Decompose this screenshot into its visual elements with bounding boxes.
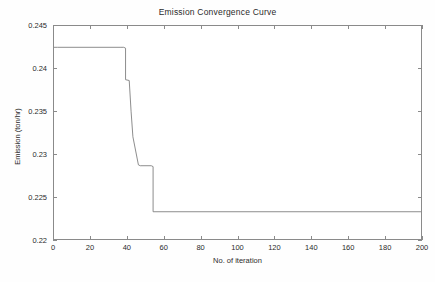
y-tick xyxy=(53,154,57,155)
x-tick-label: 200 xyxy=(416,243,429,252)
y-tick-label: 0.22 xyxy=(0,236,47,245)
x-tick xyxy=(90,25,91,29)
y-tick xyxy=(53,25,57,26)
x-tick-label: 20 xyxy=(86,243,94,252)
y-tick-label: 0.245 xyxy=(0,21,47,30)
y-tick xyxy=(418,111,422,112)
x-tick-label: 100 xyxy=(231,243,244,252)
y-tick xyxy=(418,197,422,198)
x-axis-label: No. of iteration xyxy=(53,256,422,265)
x-tick xyxy=(348,236,349,240)
x-tick xyxy=(164,236,165,240)
x-tick xyxy=(238,236,239,240)
x-tick xyxy=(311,236,312,240)
x-tick xyxy=(201,236,202,240)
y-tick xyxy=(418,68,422,69)
y-tick xyxy=(53,111,57,112)
x-tick-label: 60 xyxy=(160,243,168,252)
x-tick xyxy=(201,25,202,29)
x-tick xyxy=(164,25,165,29)
x-tick-label: 0 xyxy=(51,243,55,252)
x-tick xyxy=(274,25,275,29)
y-tick xyxy=(418,240,422,241)
series-canvas xyxy=(54,26,421,239)
y-tick-label: 0.235 xyxy=(0,107,47,116)
y-tick xyxy=(53,240,57,241)
y-tick-label: 0.24 xyxy=(0,64,47,73)
chart-figure: Emission Convergence Curve 0204060801001… xyxy=(0,0,435,282)
x-tick xyxy=(274,236,275,240)
y-tick-label: 0.23 xyxy=(0,150,47,159)
y-tick xyxy=(53,197,57,198)
y-tick-label: 0.225 xyxy=(0,193,47,202)
x-tick xyxy=(311,25,312,29)
x-tick-label: 80 xyxy=(196,243,204,252)
x-tick xyxy=(422,25,423,29)
x-tick xyxy=(348,25,349,29)
x-tick-label: 140 xyxy=(305,243,318,252)
y-tick xyxy=(418,25,422,26)
x-tick-label: 180 xyxy=(379,243,392,252)
x-tick-label: 40 xyxy=(123,243,131,252)
x-tick xyxy=(127,25,128,29)
x-tick xyxy=(90,236,91,240)
y-tick xyxy=(53,68,57,69)
x-tick xyxy=(238,25,239,29)
x-tick xyxy=(127,236,128,240)
x-tick xyxy=(385,25,386,29)
x-tick-label: 160 xyxy=(342,243,355,252)
x-tick-label: 120 xyxy=(268,243,281,252)
y-axis-label: Emission (ton/hr) xyxy=(13,72,22,202)
x-tick xyxy=(422,236,423,240)
emission-line xyxy=(54,47,421,211)
y-tick xyxy=(418,154,422,155)
x-tick xyxy=(385,236,386,240)
plot-axes-area xyxy=(53,25,422,240)
chart-title: Emission Convergence Curve xyxy=(0,7,435,17)
